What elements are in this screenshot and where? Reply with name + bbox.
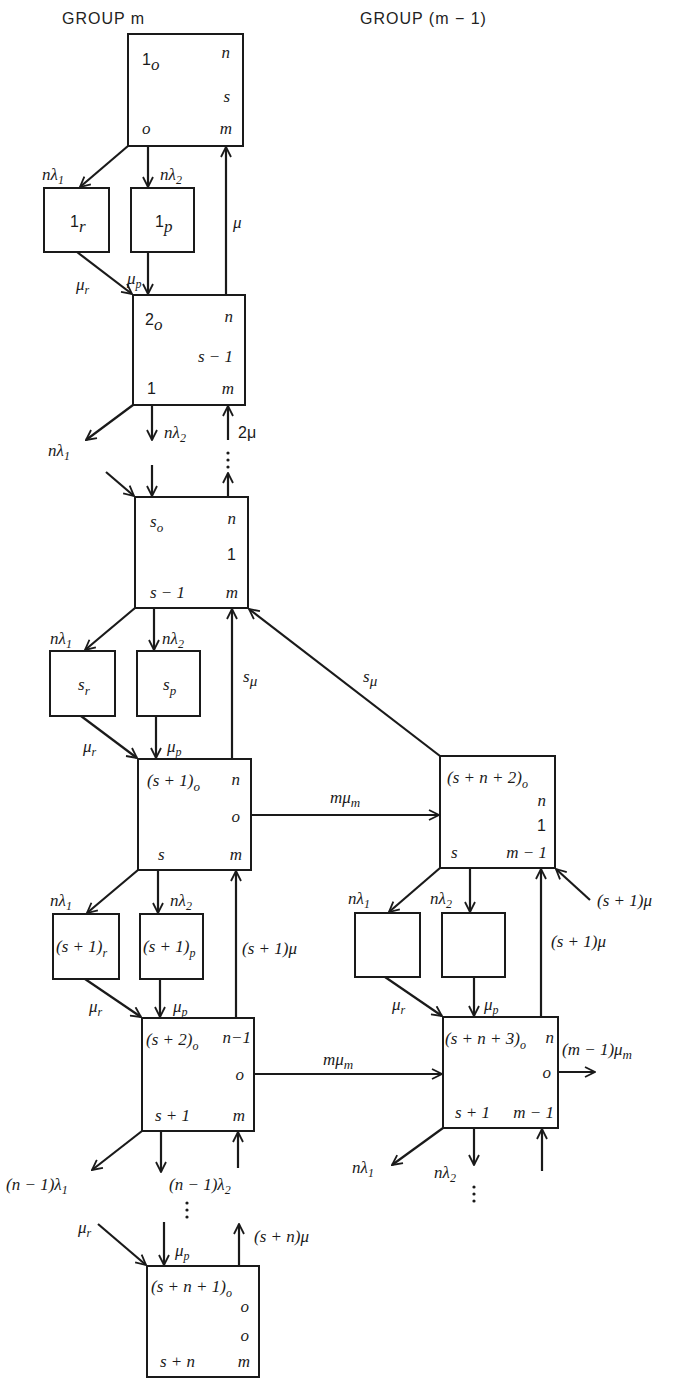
- svg-text:nλ1: nλ1: [48, 441, 70, 463]
- state-1r: 1r: [44, 188, 109, 252]
- arrow-sn2o-to-so: [249, 609, 440, 756]
- svg-text:μp: μp: [166, 737, 182, 759]
- svg-text:mμm: mμm: [330, 788, 360, 810]
- arrow-s1o-to-s1r: [87, 870, 138, 913]
- svg-text:o: o: [232, 807, 241, 826]
- svg-text:μr: μr: [82, 737, 97, 759]
- svg-text:m: m: [233, 1106, 245, 1125]
- svg-text:s: s: [451, 843, 458, 862]
- svg-text:nλ1: nλ1: [50, 629, 72, 651]
- svg-text:s + 1: s + 1: [155, 1106, 190, 1125]
- svg-text:(s + 1)μ: (s + 1)μ: [597, 891, 652, 910]
- svg-text:μp: μp: [172, 997, 188, 1019]
- state-sn1o: (s + n + 1)o o o s + n m: [147, 1266, 259, 1377]
- svg-text:mμm: mμm: [323, 1050, 353, 1072]
- svg-text:m: m: [220, 119, 232, 138]
- svg-text:nλ1: nλ1: [348, 889, 370, 911]
- svg-text:(s + 1)μ: (s + 1)μ: [551, 932, 606, 951]
- svg-text:s − 1: s − 1: [198, 347, 233, 366]
- svg-text:m: m: [238, 1352, 250, 1371]
- svg-text:nλ2: nλ2: [162, 629, 184, 651]
- svg-text:o: o: [142, 119, 151, 138]
- svg-text:nλ2: nλ2: [164, 423, 186, 445]
- svg-text:1: 1: [147, 380, 156, 397]
- svg-text:μ: μ: [232, 213, 242, 232]
- svg-text:m: m: [230, 845, 242, 864]
- svg-text:nλ1: nλ1: [42, 165, 64, 187]
- svg-text:n: n: [222, 43, 231, 62]
- arrow-in-so-r: [106, 472, 134, 496]
- svg-text:μp: μp: [126, 269, 142, 291]
- svg-text:nλ2: nλ2: [160, 165, 182, 187]
- svg-text:n: n: [546, 1028, 555, 1047]
- svg-text:s: s: [158, 845, 165, 864]
- svg-text:s + n: s + n: [160, 1352, 195, 1371]
- state-s1o: (s + 1)o n o s m: [138, 759, 251, 870]
- arrow-so-to-sr: [85, 608, 135, 650]
- svg-text:o: o: [241, 1297, 250, 1316]
- state-s1r: (s + 1)r: [53, 914, 119, 979]
- svg-text:m: m: [222, 379, 234, 398]
- state-s2o: (s + 2)o n−1 o s + 1 m: [142, 1018, 254, 1131]
- group-m-header: GROUP m: [62, 10, 145, 27]
- svg-text:o: o: [543, 1063, 552, 1082]
- svg-text:(s + n)μ: (s + n)μ: [254, 1227, 309, 1246]
- svg-text:μr: μr: [75, 275, 90, 297]
- svg-text:1: 1: [227, 546, 236, 563]
- svg-text:s + 1: s + 1: [455, 1103, 490, 1122]
- arrow-in-sn1o-r: [98, 1224, 146, 1265]
- svg-text:μr: μr: [391, 995, 406, 1017]
- svg-text:nλ1: nλ1: [50, 891, 72, 913]
- svg-text:m − 1: m − 1: [513, 1103, 554, 1122]
- arrow-1o-to-1r: [80, 146, 128, 187]
- svg-text:n: n: [225, 307, 234, 326]
- svg-text:m: m: [226, 583, 238, 602]
- state-s1p: (s + 1)p: [140, 914, 203, 979]
- state-blank-r: [355, 913, 420, 977]
- svg-text:nλ2: nλ2: [434, 1163, 456, 1185]
- state-2o: 2o n s − 1 1 m: [133, 295, 245, 405]
- svg-text:μp: μp: [174, 1241, 190, 1263]
- state-sr: sr: [50, 651, 115, 716]
- svg-text:nλ2: nλ2: [430, 889, 452, 911]
- svg-text:(n − 1)λ1: (n − 1)λ1: [6, 1175, 68, 1197]
- svg-text:sμ: sμ: [243, 667, 258, 689]
- svg-text:nλ1: nλ1: [352, 1158, 374, 1180]
- arrow-in-sn2o-s1mu: [556, 869, 590, 900]
- svg-text:n−1: n−1: [223, 1028, 251, 1047]
- svg-text:(s + 1)μ: (s + 1)μ: [242, 939, 297, 958]
- state-1p: 1p: [131, 188, 194, 252]
- svg-text:μr: μr: [88, 997, 103, 1019]
- state-sp: sp: [137, 651, 200, 716]
- svg-text:μp: μp: [483, 995, 499, 1017]
- svg-text:(n − 1)λ2: (n − 1)λ2: [169, 1175, 231, 1197]
- svg-text:1: 1: [537, 817, 546, 834]
- svg-text:(m − 1)μm: (m − 1)μm: [562, 1040, 632, 1062]
- svg-text:s − 1: s − 1: [150, 583, 185, 602]
- svg-text:n: n: [538, 791, 547, 810]
- state-blank-p: [442, 913, 505, 977]
- arrow-2o-out-l1: [86, 405, 133, 440]
- group-m-minus-1-header: GROUP (m − 1): [360, 10, 487, 27]
- state-1o: 1o n s o m: [128, 34, 243, 146]
- svg-text:2μ: 2μ: [238, 424, 256, 441]
- state-sn2o: (s + n + 2)o n 1 s m − 1: [440, 756, 555, 868]
- svg-text:n: n: [228, 509, 237, 528]
- svg-text:μr: μr: [77, 1218, 92, 1240]
- svg-text:o: o: [236, 1065, 245, 1084]
- svg-text:sμ: sμ: [363, 667, 378, 689]
- arrow-sn3o-out-l1: [392, 1128, 443, 1165]
- state-sn3o: (s + n + 3)o n o s + 1 m − 1: [443, 1017, 558, 1128]
- state-transition-diagram: GROUP m GROUP (m − 1): [0, 0, 681, 1398]
- svg-text:n: n: [232, 770, 241, 789]
- svg-text:s: s: [223, 87, 230, 106]
- svg-text:o: o: [241, 1326, 250, 1345]
- state-so: so n 1 s − 1 m: [135, 497, 248, 608]
- arrow-s2o-out-l1: [92, 1131, 142, 1170]
- svg-text:m − 1: m − 1: [506, 843, 547, 862]
- svg-text:nλ2: nλ2: [170, 891, 192, 913]
